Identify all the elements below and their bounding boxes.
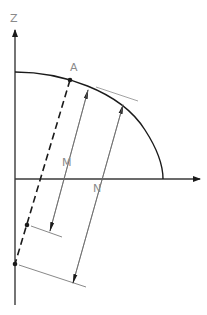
point-a-label: A bbox=[70, 61, 78, 74]
point-a bbox=[68, 78, 73, 83]
ellipse-curve bbox=[15, 72, 163, 179]
point-n-end bbox=[13, 262, 18, 267]
normal-line-dashed bbox=[15, 80, 70, 264]
point-m-end bbox=[25, 223, 30, 228]
diagram-canvas: Z A M N bbox=[0, 0, 207, 315]
dimension-m-label: M bbox=[62, 156, 72, 169]
dimension-m bbox=[31, 90, 88, 237]
dimension-n-label: N bbox=[93, 182, 101, 195]
z-axis-label: Z bbox=[10, 12, 18, 25]
tangent-line bbox=[96, 87, 138, 101]
